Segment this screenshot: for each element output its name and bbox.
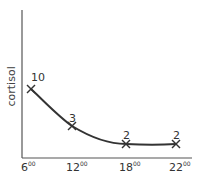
x-tick-label: 600 — [21, 160, 36, 174]
data-label: 3 — [69, 112, 76, 125]
data-label: 2 — [173, 129, 180, 142]
data-label: 10 — [31, 71, 45, 84]
cortisol-curve — [31, 89, 176, 145]
data-label: 2 — [123, 129, 130, 142]
x-marker-icon — [27, 85, 35, 93]
x-tick-label: 2200 — [169, 160, 191, 174]
data-markers — [27, 85, 180, 148]
cortisol-chart — [0, 0, 200, 180]
y-axis-label: cortisol — [5, 67, 18, 107]
x-tick-label: 1200 — [66, 160, 88, 174]
x-tick-label: 1800 — [119, 160, 141, 174]
